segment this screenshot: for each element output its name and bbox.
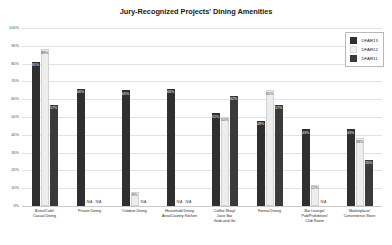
chart-title: Jury-Recognized Projects' Dining Ameniti… (0, 7, 392, 16)
x-axis-category-label: Private Dining (67, 209, 112, 214)
y-axis-tick-label: 30% (0, 151, 19, 155)
bar-group: 66%N/AN/A (167, 28, 193, 206)
legend-swatch-icon (350, 55, 357, 62)
bar-chart: Jury-Recognized Projects' Dining Ameniti… (0, 0, 392, 245)
bars-layer: 81%88%57%66%N/AN/A65%8%N/A66%N/AN/A52%50… (22, 28, 382, 206)
bar-value-label: 57% (272, 107, 286, 111)
bar[interactable] (221, 117, 229, 206)
bar[interactable] (257, 121, 265, 206)
bar-value-label: 12% (308, 187, 322, 191)
bar-value-label: N/A (317, 201, 331, 205)
bar[interactable] (167, 89, 175, 206)
bar[interactable] (365, 160, 373, 206)
bar-value-label: 26% (362, 162, 376, 166)
y-axis-tick-label: 80% (0, 62, 19, 66)
bar-group: 65%8%N/A (122, 28, 148, 206)
bar-value-label: 57% (47, 107, 61, 111)
legend-item[interactable]: DFAR13 (350, 36, 378, 45)
x-axis-category-label: Outdoor Dining (112, 209, 157, 214)
bar-group: 43%12%N/A (302, 28, 328, 206)
bar[interactable] (122, 90, 130, 206)
bar[interactable] (230, 96, 238, 206)
x-axis-category-label: Bistro/Cafe/Casual Dining (22, 209, 67, 219)
bar[interactable] (77, 89, 85, 206)
x-axis-category-label: Household DiningArea/Country Kitchen (157, 209, 202, 219)
bar-value-label: N/A (137, 201, 151, 205)
legend-label: DFAR11 (361, 56, 377, 61)
bar-group: 52%50%62% (212, 28, 238, 206)
bar-value-label: 65% (119, 93, 133, 97)
bar-group: 81%88%57% (32, 28, 58, 206)
y-axis-tick-label: 90% (0, 44, 19, 48)
legend-label: DFAR13 (361, 38, 378, 43)
bar-value-label: 88% (38, 52, 52, 56)
x-axis-labels: Bistro/Cafe/Casual DiningPrivate DiningO… (22, 209, 382, 243)
bar[interactable] (356, 138, 364, 206)
y-axis-tick-label: 60% (0, 97, 19, 101)
y-axis-tick-label: 10% (0, 186, 19, 190)
legend-swatch-icon (350, 37, 357, 44)
bar-value-label: N/A (182, 201, 196, 205)
x-axis-category-label: Coffee Shop/Juice BarGrab-and-Go (202, 209, 247, 224)
bar[interactable] (212, 113, 220, 206)
y-axis-tick-label: 70% (0, 80, 19, 84)
bar-value-label: 8% (128, 194, 142, 198)
gridline (22, 206, 382, 207)
legend-swatch-icon (350, 46, 357, 53)
x-axis-category-label: Formal Dining (247, 209, 292, 214)
bar-value-label: 43% (299, 132, 313, 136)
bar-group: 66%N/AN/A (77, 28, 103, 206)
bar-value-label: 43% (344, 132, 358, 136)
legend-item[interactable]: DFAR12 (350, 45, 378, 54)
y-axis-tick-label: 100% (0, 26, 19, 30)
bar-value-label: 66% (164, 91, 178, 95)
bar-value-label: 62% (227, 98, 241, 102)
bar[interactable] (32, 62, 40, 206)
y-axis-tick-label: 50% (0, 115, 19, 119)
bar-value-label: N/A (92, 201, 106, 205)
bar[interactable] (302, 129, 310, 206)
y-axis-tick-label: 0% (0, 204, 19, 208)
x-axis-category-label: Marketplace/Convenience Store (337, 209, 382, 219)
bar-value-label: 66% (74, 91, 88, 95)
bar-value-label: 65% (263, 93, 277, 97)
bar[interactable] (275, 105, 283, 206)
legend-label: DFAR12 (361, 47, 378, 52)
y-axis-tick-label: 20% (0, 169, 19, 173)
y-axis-tick-label: 40% (0, 133, 19, 137)
legend-item[interactable]: DFAR11 (350, 54, 378, 63)
bar[interactable] (41, 49, 49, 206)
bar-group: 48%65%57% (257, 28, 283, 206)
bar-value-label: 38% (353, 141, 367, 145)
chart-legend: DFAR13DFAR12DFAR11 (345, 32, 384, 67)
bar[interactable] (50, 105, 58, 206)
x-axis-category-label: Bar Lounge/Pub/Prohibition/Club Room (292, 209, 337, 224)
plot-area: 100%90%80%70%60%50%40%30%20%10%0% 81%88%… (22, 28, 382, 206)
